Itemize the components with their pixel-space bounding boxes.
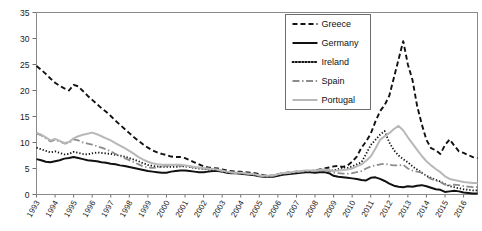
- x-tick-label: 2006: [266, 199, 283, 219]
- plot-frame: [37, 13, 478, 195]
- x-tick-label: 2014: [415, 199, 432, 219]
- x-tick-label: 1997: [99, 199, 116, 219]
- x-tick-label: 2002: [192, 199, 209, 219]
- x-tick-label: 2009: [322, 199, 339, 219]
- x-tick-label: 2001: [174, 199, 191, 219]
- x-tick-label: 2005: [248, 199, 265, 219]
- x-tick-label: 2003: [211, 199, 228, 219]
- x-tick-label: 1999: [136, 199, 153, 219]
- x-tick-label: 2000: [155, 199, 172, 219]
- y-tick-label: 0: [25, 190, 30, 200]
- y-tick-label: 15: [20, 112, 30, 122]
- legend-label-spain: Spain: [322, 76, 345, 86]
- x-tick-label: 2016: [452, 199, 469, 219]
- x-tick-label: 1994: [44, 199, 61, 219]
- x-tick-label: 1998: [118, 199, 135, 219]
- x-tick-label: 2011: [360, 199, 377, 219]
- series-line-ireland: [37, 131, 478, 190]
- legend-label-germany: Germany: [322, 38, 360, 48]
- y-axis-ticks: 05101520253035: [20, 8, 36, 200]
- series-line-portugal: [37, 126, 478, 183]
- legend-label-portugal: Portugal: [322, 95, 356, 105]
- x-tick-label: 2012: [378, 199, 395, 219]
- x-tick-label: 2015: [434, 199, 451, 219]
- x-tick-label: 1995: [62, 199, 79, 219]
- series-line-greece: [37, 41, 478, 176]
- y-tick-label: 10: [20, 138, 30, 148]
- y-tick-label: 5: [25, 164, 30, 174]
- x-tick-label: 1996: [81, 199, 98, 219]
- x-tick-label: 2008: [304, 199, 321, 219]
- x-tick-label: 2004: [229, 199, 246, 219]
- legend-label-ireland: Ireland: [322, 57, 350, 67]
- chart-container: 05101520253035 1993199419951996199719981…: [0, 0, 482, 231]
- x-axis-ticks: 1993199419951996199719981999200020012002…: [25, 195, 469, 219]
- x-tick-label: 1993: [25, 199, 42, 219]
- x-tick-label: 2013: [396, 199, 413, 219]
- series-layer: [37, 41, 478, 193]
- x-tick-label: 2010: [341, 199, 358, 219]
- line-chart: 05101520253035 1993199419951996199719981…: [0, 0, 482, 231]
- y-tick-label: 30: [20, 34, 30, 44]
- y-tick-label: 35: [20, 8, 30, 18]
- y-tick-label: 20: [20, 86, 30, 96]
- x-tick-label: 2007: [285, 199, 302, 219]
- y-tick-label: 25: [20, 60, 30, 70]
- legend: GreeceGermanyIrelandSpainPortugal: [286, 15, 371, 110]
- legend-label-greece: Greece: [322, 19, 352, 29]
